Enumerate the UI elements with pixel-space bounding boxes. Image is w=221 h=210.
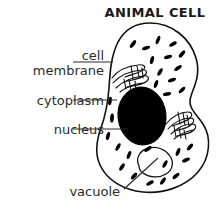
animal-cell-figure: ANIMAL CELL [0,0,221,210]
label-cytoplasm: cytoplasm [0,93,104,108]
label-nucleus: nucleus [0,122,104,137]
label-cell-membrane-line1: cell [0,48,104,63]
label-cell-membrane-line2: membrane [0,63,104,78]
label-vacuole: vacuole [40,184,120,199]
label-cell-membrane: cell membrane [0,48,104,78]
